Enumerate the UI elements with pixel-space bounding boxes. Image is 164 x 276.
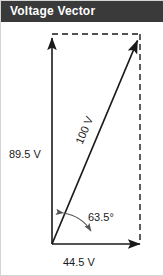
horizontal-component-label: 44.5 V	[63, 256, 95, 268]
angle-arc	[64, 213, 92, 231]
figure-title: Voltage Vector	[10, 4, 95, 18]
figure-header-bar: Voltage Vector	[1, 1, 164, 22]
angle-label: 63.5°	[88, 211, 114, 223]
vector-diagram: 89.5 V 44.5 V 100 V 63.5°	[1, 22, 164, 276]
voltage-vector-figure: Voltage Vector 89.5 V	[0, 0, 164, 276]
vertical-component-label: 89.5 V	[9, 148, 41, 160]
